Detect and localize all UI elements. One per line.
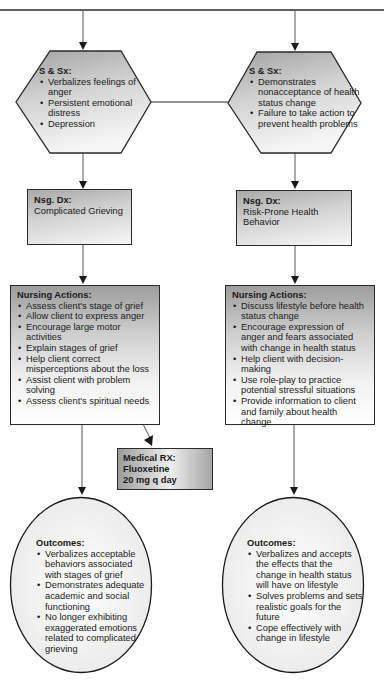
left-ss-item: Depression bbox=[39, 119, 143, 130]
right-outcomes-oval: Outcomes: Verbalizes and accepts the eff… bbox=[221, 496, 365, 674]
left-outcomes-oval: Outcomes: Verbalizes acceptable behavior… bbox=[9, 496, 153, 674]
right-ss-title: S & Sx: bbox=[249, 66, 361, 77]
left-dx-text: Complicated Grieving bbox=[34, 206, 123, 216]
right-outcome-item: Cope effectively with change in lifestyl… bbox=[247, 623, 363, 644]
left-outcomes-title: Outcomes: bbox=[36, 538, 148, 549]
right-action-item: Provide information to client and family… bbox=[232, 396, 368, 428]
right-outcome-item: Solves problems and sets realistic goals… bbox=[247, 591, 363, 623]
medical-rx-drug: Fluoxetine bbox=[123, 464, 207, 475]
right-signs-symptoms-hexagon: S & Sx: Demonstrates nonacceptance of he… bbox=[227, 51, 363, 154]
right-nursing-dx-box: Nsg. Dx: Risk-Prone Health Behavior bbox=[236, 190, 352, 246]
right-action-item: Use role-play to practice potential stre… bbox=[232, 375, 368, 396]
right-ss-item: Demonstrates nonacceptance of health sta… bbox=[249, 77, 361, 109]
right-dx-text: Risk-Prone Health Behavior bbox=[243, 207, 318, 228]
left-action-item: Encourage large motor activities bbox=[17, 322, 153, 343]
left-outcome-item: Verbalizes acceptable behaviors associat… bbox=[36, 549, 148, 581]
right-outcomes-title: Outcomes: bbox=[247, 538, 363, 549]
medical-rx-dose: 20 mg q day bbox=[123, 475, 207, 486]
right-actions-title: Nursing Actions: bbox=[232, 290, 368, 301]
left-signs-symptoms-hexagon: S & Sx: Verbalizes feelings of anger Per… bbox=[15, 50, 152, 154]
left-dx-title: Nsg. Dx: bbox=[34, 195, 125, 206]
left-action-item: Assess client's spiritual needs bbox=[17, 396, 153, 407]
left-action-item: Help client correct misperceptions about… bbox=[17, 354, 153, 375]
right-action-item: Help client with decision-making bbox=[232, 354, 368, 375]
left-nursing-dx-box: Nsg. Dx: Complicated Grieving bbox=[27, 189, 132, 245]
right-action-item: Discuss lifestyle before health status c… bbox=[232, 301, 368, 322]
right-outcome-item: Verbalizes and accepts the effects that … bbox=[247, 549, 363, 591]
left-outcome-item: Demonstrates adequate academic and socia… bbox=[36, 580, 148, 612]
right-nursing-actions-box: Nursing Actions: Discuss lifestyle befor… bbox=[225, 285, 375, 425]
left-ss-title: S & Sx: bbox=[39, 66, 143, 77]
left-action-item: Assess client's stage of grief bbox=[17, 301, 153, 312]
left-actions-title: Nursing Actions: bbox=[17, 290, 153, 301]
left-nursing-actions-box: Nursing Actions: Assess client's stage o… bbox=[10, 285, 160, 425]
right-dx-title: Nsg. Dx: bbox=[243, 196, 345, 207]
arrow-down-icon bbox=[291, 43, 299, 51]
left-action-item: Assist client with problem solving bbox=[17, 375, 153, 396]
left-action-item: Allow client to express anger bbox=[17, 311, 153, 322]
arrow-down-icon bbox=[79, 42, 87, 50]
left-outcome-item: No longer exhibiting exaggerated emotion… bbox=[36, 612, 148, 654]
right-ss-item: Failure to take action to prevent health… bbox=[249, 108, 361, 129]
medical-rx-title: Medical RX: bbox=[123, 453, 207, 464]
medical-rx-box: Medical RX: Fluoxetine 20 mg q day bbox=[117, 448, 213, 490]
right-action-item: Encourage expression of anger and fears … bbox=[232, 322, 368, 354]
left-ss-item: Persistent emotional distress bbox=[39, 98, 143, 119]
left-action-item: Explain stages of grief bbox=[17, 343, 153, 354]
left-ss-item: Verbalizes feelings of anger bbox=[39, 77, 143, 98]
